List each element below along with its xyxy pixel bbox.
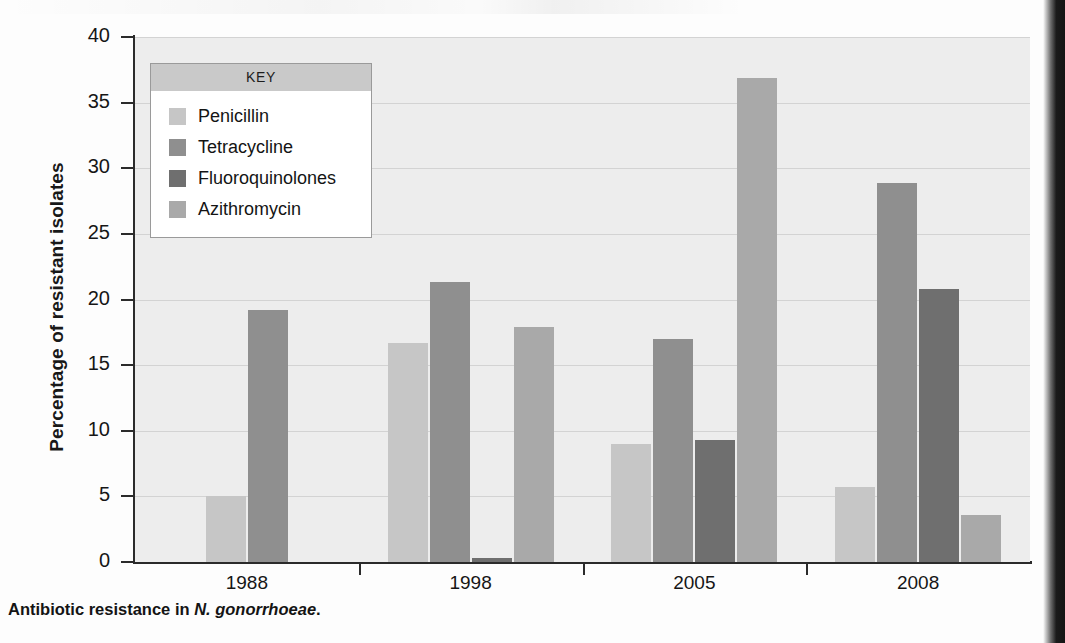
- caption-prefix: Antibiotic resistance in: [8, 600, 194, 618]
- caption-suffix: .: [316, 600, 321, 618]
- bar-fluoroquinolones-2008: [919, 289, 959, 562]
- bar-azithromycin-2005: [737, 78, 777, 562]
- bar-penicillin-1988: [206, 496, 246, 562]
- figure-caption: Antibiotic resistance in N. gonorrhoeae.: [8, 600, 321, 619]
- legend-swatch-penicillin-icon: [169, 108, 186, 125]
- x-axis-separator-2: [583, 563, 585, 575]
- y-tick-label-15: 15: [62, 352, 110, 375]
- y-tick-label-35: 35: [62, 90, 110, 113]
- bar-penicillin-2005: [611, 444, 651, 562]
- figure-antibiotic-resistance: Percentage of resistant isolates 0510152…: [0, 0, 1065, 643]
- bar-tetracycline-1998: [430, 282, 470, 562]
- gridline-40: [135, 37, 1030, 38]
- x-axis-label-2008: 2008: [858, 572, 978, 594]
- legend-label-penicillin: Penicillin: [198, 106, 269, 127]
- legend-items: PenicillinTetracyclineFluoroquinolonesAz…: [151, 91, 371, 237]
- y-tick-label-5: 5: [62, 483, 110, 506]
- scan-artifact-top: [0, 0, 1065, 14]
- bar-fluoroquinolones-1998: [472, 558, 512, 562]
- y-tick-label-0: 0: [62, 549, 110, 572]
- legend-item-penicillin: Penicillin: [151, 101, 371, 132]
- x-axis-label-1988: 1988: [187, 572, 307, 594]
- chart-legend: KEY PenicillinTetracyclineFluoroquinolon…: [150, 63, 372, 238]
- caption-species-name: N. gonorrhoeae: [194, 600, 316, 618]
- legend-label-azithromycin: Azithromycin: [198, 199, 301, 220]
- legend-swatch-azithromycin-icon: [169, 201, 186, 218]
- x-axis-separator-3: [806, 563, 808, 575]
- x-axis-separator-1: [359, 563, 361, 575]
- x-axis-label-1998: 1998: [411, 572, 531, 594]
- x-axis-label-2005: 2005: [634, 572, 754, 594]
- legend-item-fluoroquinolones: Fluoroquinolones: [151, 163, 371, 194]
- bar-azithromycin-1998: [514, 327, 554, 562]
- y-tick-label-25: 25: [62, 221, 110, 244]
- bar-tetracycline-1988: [248, 310, 288, 562]
- legend-title: KEY: [151, 64, 371, 91]
- bar-penicillin-2008: [835, 487, 875, 562]
- bar-tetracycline-2005: [653, 339, 693, 562]
- y-tick-label-10: 10: [62, 418, 110, 441]
- legend-swatch-fluoroquinolones-icon: [169, 170, 186, 187]
- legend-label-fluoroquinolones: Fluoroquinolones: [198, 168, 336, 189]
- y-tick-label-40: 40: [62, 24, 110, 47]
- scan-artifact-right-edge: [1043, 0, 1065, 643]
- bar-tetracycline-2008: [877, 183, 917, 562]
- bar-penicillin-1998: [388, 343, 428, 562]
- legend-item-tetracycline: Tetracycline: [151, 132, 371, 163]
- bar-azithromycin-2008: [961, 515, 1001, 562]
- legend-item-azithromycin: Azithromycin: [151, 194, 371, 225]
- y-tick-label-20: 20: [62, 287, 110, 310]
- legend-label-tetracycline: Tetracycline: [198, 137, 293, 158]
- legend-swatch-tetracycline-icon: [169, 139, 186, 156]
- bar-fluoroquinolones-2005: [695, 440, 735, 562]
- y-tick-label-30: 30: [62, 155, 110, 178]
